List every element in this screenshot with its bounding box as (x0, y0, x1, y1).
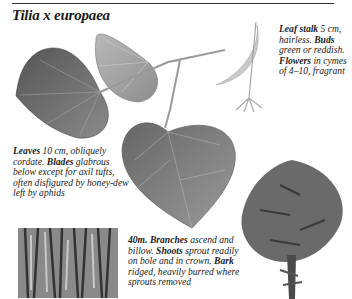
branches-label: Branches (150, 234, 188, 245)
bark-text: ridged, heavily burred where sprouts rem… (128, 266, 239, 288)
shoots-label: Shoots (156, 245, 183, 256)
leaf-stalk-caption: Leaf stalk 5 cm, hairless. Buds green or… (279, 24, 347, 77)
tree-silhouette (241, 160, 342, 299)
leaf-upper-light (95, 34, 157, 102)
blades-label: Blades (47, 156, 74, 167)
tree-caption: 40m. Branches ascend and billow. Shoots … (128, 235, 248, 288)
leaves-label: Leaves (13, 145, 40, 156)
bark-texture (18, 228, 118, 298)
buds-label: Buds (314, 34, 334, 45)
leaves-caption: Leaves 10 cm, obliquely cordate. Blades … (13, 146, 133, 199)
height-label: 40m. (128, 234, 147, 245)
flower-bract (216, 22, 262, 112)
bark-label: Bark (214, 255, 234, 266)
flowers-label: Flowers (279, 55, 311, 66)
buds-text: green or reddish. (279, 44, 345, 55)
leaf-lower (122, 123, 235, 228)
leaf-upper-dark (16, 48, 108, 138)
leaf-stalk-label: Leaf stalk (279, 23, 318, 34)
